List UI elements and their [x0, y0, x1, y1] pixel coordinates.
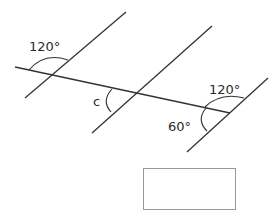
angle-label-right-bottom: 60°	[168, 119, 191, 134]
angle-arc-right-bottom	[201, 108, 207, 131]
parallel-line-2	[92, 26, 212, 133]
angle-arc-c	[106, 89, 112, 112]
parallel-line-1	[25, 12, 126, 98]
angle-label-right-top: 120°	[209, 82, 240, 97]
answer-input-box[interactable]	[143, 168, 236, 210]
angle-label-c: c	[93, 94, 100, 109]
angle-arc-top-left	[29, 58, 68, 70]
angle-label-top-left: 120°	[29, 39, 60, 54]
